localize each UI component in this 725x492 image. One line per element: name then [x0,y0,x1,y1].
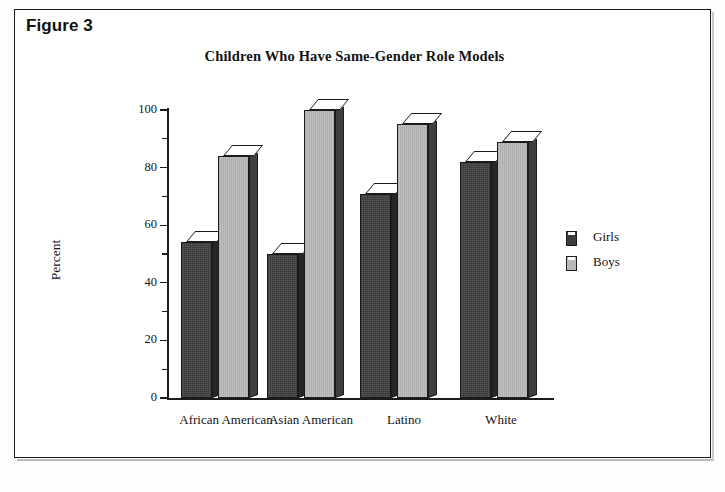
bar-side-face [335,107,344,398]
bar-white-boys[interactable] [497,131,528,398]
bar-texture [268,255,297,397]
bar-asian-american-boys[interactable] [304,99,335,398]
legend-swatch-girls-icon [566,231,577,246]
bar-texture [182,243,211,397]
bar-side-face [428,121,437,398]
y-tick-minor-30 [162,311,167,312]
bar-front-face [397,124,428,398]
bar-texture [219,157,248,397]
bar-front-face [267,254,298,398]
y-tick-minor-50 [162,253,167,254]
bar-front-face [304,110,335,398]
bar-texture [305,111,334,397]
legend-label-girls: Girls [593,229,619,245]
bar-front-face [360,194,391,398]
bar-texture [498,143,527,397]
bar-texture [398,125,427,397]
bar-texture [461,163,490,397]
y-tick-100 [160,109,167,110]
bar-front-face [218,156,249,398]
y-tick-minor-10 [162,369,167,370]
bar-front-face [460,162,491,398]
bar-latino-girls[interactable] [360,183,391,398]
y-tick-60 [160,225,167,226]
bar-side-face [528,138,537,398]
bar-texture [361,195,390,397]
y-tick-20 [160,340,167,341]
y-tick-minor-70 [162,196,167,197]
bar-white-girls[interactable] [460,151,491,398]
figure-page: Figure 3 Children Who Have Same-Gender R… [0,0,725,492]
chart-plot-area: Percent 020406080100 African AmericanAsi… [0,0,725,492]
x-label-white: White [426,412,576,428]
bar-front-face [497,142,528,398]
bar-african-american-girls[interactable] [181,231,212,398]
y-tick-80 [160,167,167,168]
legend-label-boys: Boys [593,254,620,270]
y-axis-title: Percent [48,200,64,320]
bar-latino-boys[interactable] [397,113,428,398]
x-axis-line [167,398,554,400]
y-tick-0 [160,397,167,398]
legend-swatch-boys-icon [566,256,577,271]
bar-front-face [181,242,212,398]
y-tick-minor-90 [162,138,167,139]
bar-african-american-boys[interactable] [218,145,249,398]
bar-side-face [249,153,258,398]
y-axis-line [167,108,169,400]
y-tick-40 [160,282,167,283]
bar-asian-american-girls[interactable] [267,243,298,398]
